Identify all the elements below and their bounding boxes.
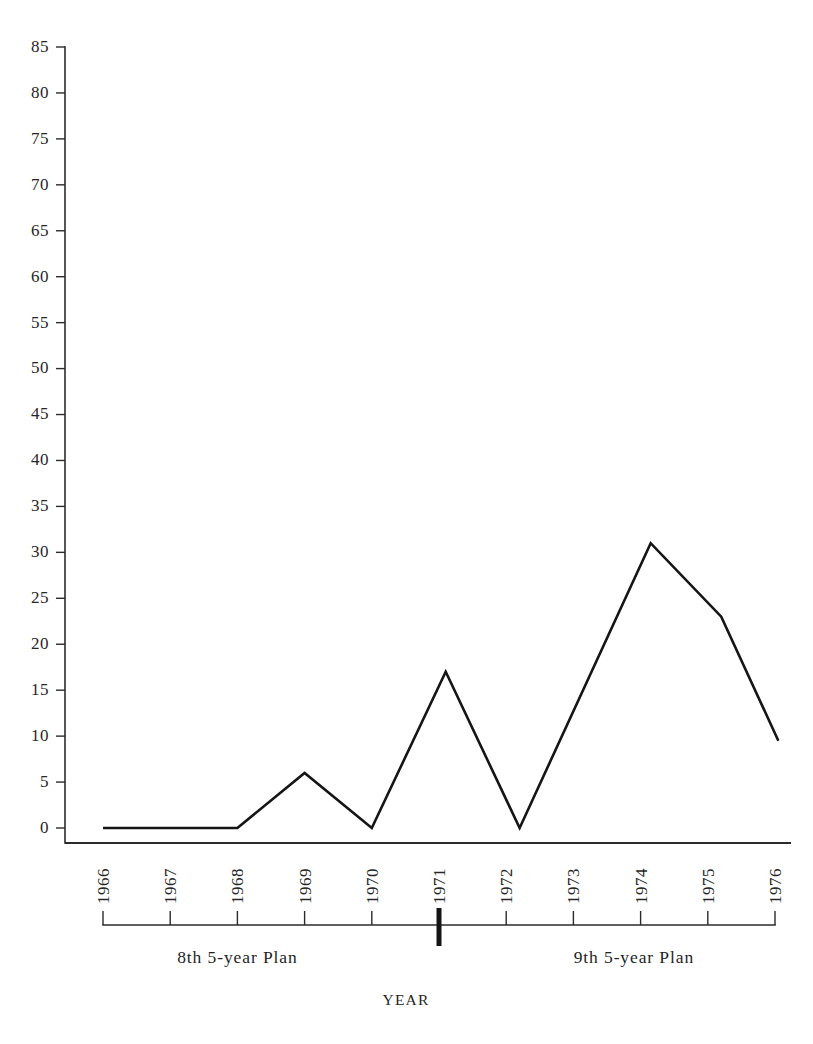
x-tick-label: 1973 bbox=[564, 868, 583, 904]
y-tick-label: 15 bbox=[31, 680, 49, 699]
y-tick-label: 70 bbox=[31, 175, 49, 194]
x-tick-label: 1976 bbox=[766, 868, 785, 904]
x-tick-label: 1967 bbox=[161, 868, 180, 904]
y-tick-label: 20 bbox=[31, 634, 49, 653]
y-tick-label: 30 bbox=[31, 542, 49, 561]
y-tick-label: 65 bbox=[31, 221, 49, 240]
y-tick-label: 40 bbox=[31, 450, 49, 469]
y-tick-label: 50 bbox=[31, 358, 49, 377]
x-tick-label: 1969 bbox=[296, 868, 315, 904]
plan-label-8th: 8th 5-year Plan bbox=[177, 947, 297, 967]
x-tick-label: 1972 bbox=[497, 868, 516, 904]
x-tick-label: 1975 bbox=[699, 868, 718, 904]
line-chart: 0510152025303540455055606570758085 19661… bbox=[0, 0, 813, 1044]
x-tick-label: 1974 bbox=[632, 868, 651, 904]
y-tick-label: 45 bbox=[31, 404, 49, 423]
y-tick-label: 85 bbox=[31, 37, 49, 56]
y-tick-label: 60 bbox=[31, 267, 49, 286]
y-tick-label: 25 bbox=[31, 588, 49, 607]
data-series-line bbox=[103, 543, 778, 828]
y-tick-label: 0 bbox=[40, 818, 49, 837]
x-axis-ticks: 1966196719681969197019711972197319741975… bbox=[94, 868, 785, 946]
y-tick-label: 5 bbox=[40, 772, 49, 791]
x-tick-label: 1966 bbox=[94, 868, 113, 904]
y-tick-label: 35 bbox=[31, 496, 49, 515]
x-tick-label: 1968 bbox=[228, 868, 247, 904]
y-tick-label: 80 bbox=[31, 83, 49, 102]
plan-label-9th: 9th 5-year Plan bbox=[574, 947, 694, 967]
x-tick-label: 1970 bbox=[363, 868, 382, 904]
x-axis-title: YEAR bbox=[383, 991, 430, 1008]
y-axis-ticks: 0510152025303540455055606570758085 bbox=[31, 37, 65, 837]
y-tick-label: 75 bbox=[31, 129, 49, 148]
y-tick-label: 10 bbox=[31, 726, 49, 745]
x-tick-label: 1971 bbox=[430, 868, 449, 904]
chart-figure: 0510152025303540455055606570758085 19661… bbox=[0, 0, 813, 1044]
y-tick-label: 55 bbox=[31, 313, 49, 332]
